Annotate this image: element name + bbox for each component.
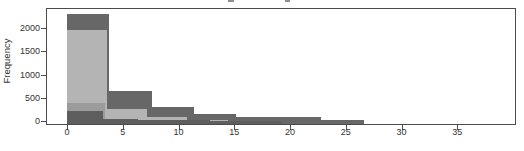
y-axis-tick — [41, 75, 46, 76]
cropped-title-fragment — [228, 0, 234, 2]
y-axis-tick — [41, 121, 46, 122]
x-tick-label: 20 — [275, 127, 305, 138]
y-axis-tick — [41, 98, 46, 99]
bar-histogram-dark-narrow-bin4 — [210, 121, 246, 126]
y-axis-tick — [41, 28, 46, 29]
y-tick-label: 1000 — [2, 70, 40, 81]
bar-histogram-dark-narrow-bin2 — [138, 120, 174, 126]
y-tick-label: 2000 — [2, 23, 40, 34]
y-axis-tick — [41, 51, 46, 52]
y-axis-label: Frequency — [1, 28, 13, 94]
bar-histogram-dark-wide-bin5 — [279, 117, 321, 125]
bar-histogram-dark-narrow-bin1 — [103, 119, 139, 126]
y-tick-label: 1500 — [2, 46, 40, 57]
y-tick-label: 0 — [2, 116, 40, 127]
bar-histogram-dark-narrow-bin5 — [245, 121, 281, 125]
x-tick-label: 15 — [219, 127, 249, 138]
x-tick-label: 5 — [108, 127, 138, 138]
histogram-figure: Frequency 051015202530350500100015002000 — [0, 0, 524, 151]
x-tick-label: 25 — [331, 127, 361, 138]
x-tick-label: 35 — [442, 127, 472, 138]
y-tick-label: 500 — [2, 93, 40, 104]
x-tick-label: 0 — [52, 127, 82, 138]
bar-histogram-dark-narrow-bin0 — [67, 111, 103, 126]
x-tick-label: 30 — [387, 127, 417, 138]
bar-histogram-dark-wide-bin6 — [321, 120, 363, 126]
cropped-title-fragment — [285, 0, 290, 2]
x-tick-label: 10 — [164, 127, 194, 138]
